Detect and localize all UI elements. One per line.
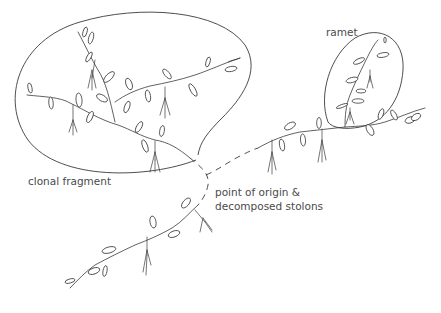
leaf (159, 125, 165, 137)
leaf (278, 139, 285, 152)
leaf (82, 27, 88, 38)
leaf (144, 90, 151, 103)
leaf (102, 265, 108, 277)
leaf (27, 83, 33, 94)
leaf (102, 70, 116, 84)
leaf (187, 83, 198, 98)
leaf (101, 245, 116, 254)
leaf (317, 118, 322, 129)
leaf (205, 57, 211, 68)
leaf (300, 134, 306, 146)
root-cluster (143, 237, 151, 275)
leaf (180, 196, 192, 209)
root-cluster (318, 129, 326, 162)
label-origin-line2: decomposed stolons (215, 200, 323, 212)
leaf (75, 93, 82, 107)
leaf (225, 65, 238, 72)
leaf (134, 121, 144, 134)
leaves (27, 27, 422, 285)
leaf (167, 229, 180, 239)
root-cluster (268, 140, 276, 174)
decomposed-stolon-right (206, 148, 258, 175)
leaf (65, 278, 76, 284)
leaf (352, 99, 364, 103)
leaf (346, 76, 359, 84)
leaf (377, 52, 390, 59)
leaf (377, 108, 385, 120)
stolon-upper-right (115, 58, 240, 102)
clonal-plant-diagram: ramet clonal fragment point of origin & … (0, 0, 441, 313)
leaf (87, 266, 100, 276)
root-cluster (150, 141, 160, 172)
stolon-tip-upper (228, 58, 240, 62)
leaf (48, 97, 53, 109)
leaf (283, 120, 296, 131)
leaf (161, 68, 173, 80)
root-cluster (346, 108, 354, 124)
root-cluster (69, 105, 77, 135)
label-origin-line1: point of origin & (215, 186, 300, 198)
leaf (364, 123, 375, 136)
leaf (384, 37, 386, 43)
stolon-lower-left (70, 205, 198, 288)
label-ramet: ramet (326, 26, 358, 38)
root-cluster (367, 70, 373, 88)
leaf (356, 89, 366, 93)
leaf (124, 77, 134, 90)
leaf (389, 109, 398, 121)
root-cluster (195, 210, 212, 232)
leaf (149, 216, 157, 229)
leaf (123, 101, 132, 114)
leaf (140, 139, 149, 153)
clonal-fragment-boundary (15, 12, 251, 173)
leaf (85, 51, 94, 63)
root-cluster (160, 87, 170, 118)
decomposed-stolon-left (190, 158, 208, 205)
label-clonal-fragment: clonal fragment (28, 175, 111, 187)
leaf (85, 111, 95, 124)
leaf (87, 32, 95, 45)
leaf (95, 92, 108, 103)
